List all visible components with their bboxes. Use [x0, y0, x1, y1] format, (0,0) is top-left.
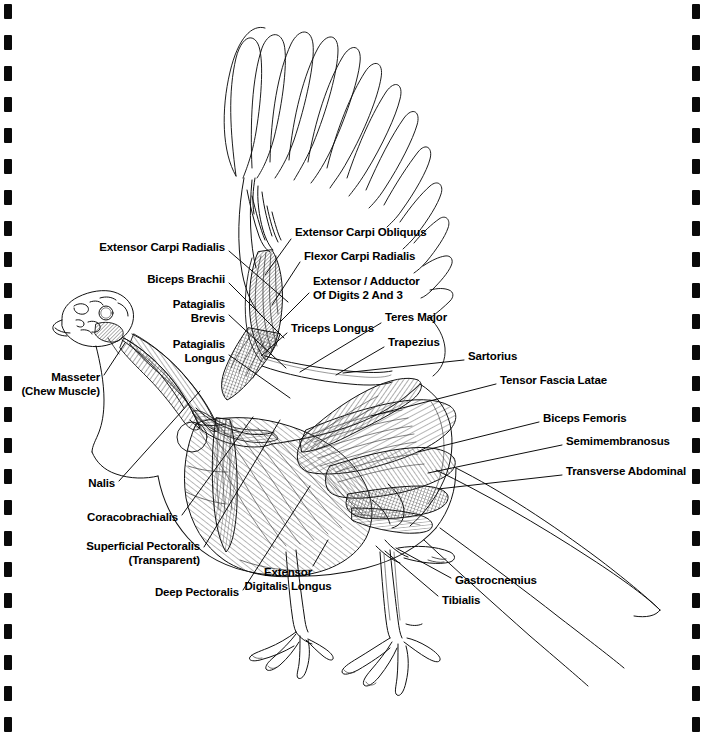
- triceps-longus-band: [262, 356, 392, 385]
- binding-hole: [692, 469, 700, 484]
- binding-hole: [4, 35, 12, 50]
- binding-hole: [4, 190, 12, 205]
- binding-hole: [692, 252, 700, 267]
- label-tensor-fascia-latae: Tensor Fascia Latae: [500, 374, 607, 388]
- binding-hole: [4, 407, 12, 422]
- label-semimembranosus: Semimembranosus: [566, 435, 670, 449]
- label-extensor-adductor-digits: Extensor / Adductor Of Digits 2 And 3: [313, 275, 420, 302]
- label-masseter: Masseter (Chew Muscle): [0, 371, 100, 398]
- binding-hole: [692, 4, 700, 19]
- label-teres-major: Teres Major: [385, 311, 447, 325]
- binding-hole: [4, 128, 12, 143]
- notebook-page: Extensor Carpi RadialisExtensor Carpi Ob…: [0, 0, 714, 749]
- binding-hole: [692, 221, 700, 236]
- label-nalis: Nalis: [0, 477, 115, 491]
- label-patagialis-longus: Patagialis Longus: [0, 338, 225, 365]
- binding-hole: [692, 686, 700, 701]
- lower-leg-muscles: [376, 540, 455, 563]
- binding-hole: [4, 655, 12, 670]
- label-biceps-brachii: Biceps Brachii: [0, 273, 225, 287]
- label-biceps-femoris: Biceps Femoris: [543, 412, 627, 426]
- binding-hole: [692, 593, 700, 608]
- label-flexor-carpi-radialis: Flexor Carpi Radialis: [304, 250, 415, 264]
- spiral-binding-right: [690, 0, 704, 749]
- binding-hole: [692, 128, 700, 143]
- binding-hole: [4, 159, 12, 174]
- binding-hole: [4, 438, 12, 453]
- label-triceps-longus: Triceps Longus: [291, 322, 374, 336]
- binding-hole: [692, 314, 700, 329]
- label-extensor-carpi-obliquus: Extensor Carpi Obliquus: [295, 226, 426, 240]
- upper-arm-muscle-group: [222, 328, 280, 400]
- binding-hole: [692, 35, 700, 50]
- binding-hole: [692, 624, 700, 639]
- label-tibialis: Tibialis: [442, 594, 480, 608]
- binding-hole: [692, 66, 700, 81]
- binding-hole: [4, 97, 12, 112]
- binding-hole: [692, 531, 700, 546]
- binding-hole: [692, 283, 700, 298]
- label-patagialis-brevis: Patagialis Brevis: [0, 298, 225, 325]
- label-superficial-pectoralis: Superficial Pectoralis (Transparent): [0, 540, 200, 567]
- ll-transverse-abdominal: [438, 475, 562, 489]
- binding-hole: [692, 655, 700, 670]
- label-transverse-abdominal: Transverse Abdominal: [566, 465, 686, 479]
- binding-hole: [4, 221, 12, 236]
- binding-hole: [4, 66, 12, 81]
- label-extensor-carpi-radialis: Extensor Carpi Radialis: [0, 241, 225, 255]
- ll-sartorius: [343, 360, 464, 373]
- binding-hole: [4, 686, 12, 701]
- label-sartorius: Sartorius: [468, 350, 517, 364]
- binding-hole: [4, 624, 12, 639]
- binding-hole: [4, 4, 12, 19]
- ll-extensor-adductor: [280, 293, 309, 322]
- binding-hole: [692, 407, 700, 422]
- binding-hole: [692, 97, 700, 112]
- binding-hole: [692, 345, 700, 360]
- label-trapezius: Trapezius: [388, 336, 440, 350]
- turkey-anatomy-illustration: [0, 0, 714, 749]
- binding-hole: [692, 159, 700, 174]
- binding-hole: [692, 438, 700, 453]
- label-coracobrachialis: Coracobrachialis: [0, 511, 178, 525]
- label-deep-pectoralis: Deep Pectoralis: [0, 586, 239, 600]
- binding-hole: [4, 717, 12, 732]
- binding-hole: [692, 562, 700, 577]
- binding-hole: [692, 500, 700, 515]
- binding-hole: [692, 190, 700, 205]
- binding-hole: [692, 717, 700, 732]
- label-gastrocnemius: Gastrocnemius: [455, 574, 537, 588]
- binding-hole: [692, 376, 700, 391]
